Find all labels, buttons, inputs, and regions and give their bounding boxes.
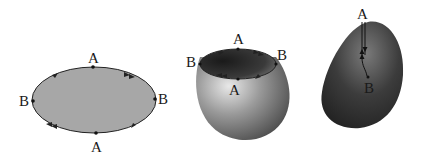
label-b-right: B <box>277 47 287 63</box>
point-b-left <box>31 99 35 103</box>
point-a-top <box>236 47 239 50</box>
point-b-right <box>153 97 157 101</box>
label-b-left: B <box>186 54 196 70</box>
label-b-right: B <box>158 91 168 107</box>
label-a-top: A <box>88 50 99 66</box>
panel-bowl: A A B B <box>186 31 290 140</box>
label-a: A <box>357 6 368 22</box>
label-a-top: A <box>233 31 244 47</box>
point-b-left <box>198 62 201 65</box>
label-a-bottom: A <box>229 82 240 98</box>
panel-closed-surface: A B <box>321 6 403 128</box>
panel-flat-disk: A A B B <box>19 50 168 155</box>
label-b-left: B <box>19 93 29 109</box>
point-b <box>367 76 370 79</box>
label-b: B <box>364 80 374 96</box>
label-a-bottom: A <box>91 139 102 155</box>
point-a-bottom <box>236 77 239 80</box>
point-a-bottom <box>94 131 98 135</box>
bowl-opening <box>200 49 276 79</box>
diagram-canvas: A A B B A A B B A B <box>0 0 430 160</box>
